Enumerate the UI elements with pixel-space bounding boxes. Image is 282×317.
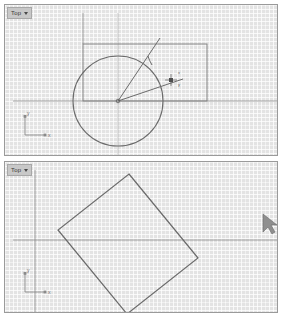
axis-y-label-top: y: [27, 110, 30, 116]
axis-x-label-bottom: x: [48, 289, 51, 295]
snap-tooltip-line1: x: [178, 71, 180, 75]
bottom-viewport-text-layer: y x: [5, 162, 277, 312]
viewport-label-bottom-text: Top: [11, 166, 21, 175]
viewport-label-bottom[interactable]: Top: [7, 164, 32, 176]
snap-tooltip-line2: y: [178, 83, 180, 87]
viewport-label-top-text: Top: [11, 9, 21, 18]
viewport-label-top[interactable]: Top: [7, 7, 32, 19]
chevron-down-icon[interactable]: [24, 12, 28, 15]
axis-y-label-bottom: y: [27, 267, 30, 273]
axis-x-label-top: x: [48, 132, 51, 138]
chevron-down-icon[interactable]: [24, 169, 28, 172]
bottom-viewport[interactable]: y x Top: [4, 161, 278, 313]
top-viewport[interactable]: y x x y Top: [4, 4, 278, 156]
top-viewport-text-layer: y x: [5, 5, 277, 155]
cad-application-window: y x x y Top: [0, 0, 282, 317]
